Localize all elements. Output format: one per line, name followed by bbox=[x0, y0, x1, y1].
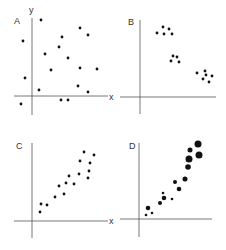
panel-label-a: A bbox=[14, 16, 20, 26]
panel-c bbox=[14, 143, 108, 238]
data-point bbox=[87, 91, 90, 94]
data-point bbox=[171, 198, 174, 201]
data-point bbox=[145, 214, 148, 217]
data-point bbox=[185, 164, 191, 170]
data-point bbox=[162, 192, 165, 195]
panel-c-points bbox=[39, 151, 96, 214]
data-point bbox=[208, 81, 211, 84]
data-point bbox=[146, 206, 151, 211]
data-point bbox=[196, 72, 199, 75]
axis-label-y: y bbox=[29, 5, 34, 15]
data-point bbox=[170, 60, 173, 63]
data-point bbox=[163, 33, 166, 36]
data-point bbox=[20, 103, 23, 106]
data-point bbox=[178, 61, 181, 64]
data-point bbox=[183, 177, 188, 182]
data-point bbox=[162, 26, 165, 29]
data-point bbox=[188, 148, 193, 153]
data-point bbox=[205, 74, 208, 77]
data-point bbox=[44, 53, 47, 56]
data-point bbox=[24, 77, 27, 80]
data-point bbox=[67, 57, 70, 60]
panel-b bbox=[120, 20, 216, 114]
data-point bbox=[78, 173, 81, 176]
data-point bbox=[77, 85, 80, 88]
data-point bbox=[67, 99, 70, 102]
data-point bbox=[40, 19, 43, 22]
data-point bbox=[65, 182, 68, 185]
data-point bbox=[50, 69, 53, 72]
data-point bbox=[79, 160, 82, 163]
data-point bbox=[158, 201, 162, 205]
scatter-figure: AyxBCxD bbox=[0, 0, 226, 250]
data-point bbox=[204, 70, 207, 73]
data-point bbox=[46, 204, 49, 207]
data-point bbox=[88, 170, 91, 173]
panel-label-d: D bbox=[129, 141, 136, 151]
data-point bbox=[61, 36, 64, 39]
axis-label-x: x bbox=[109, 216, 114, 226]
panel-a-points bbox=[20, 19, 99, 106]
data-point bbox=[171, 33, 174, 36]
data-point bbox=[151, 212, 154, 215]
data-point bbox=[196, 152, 203, 159]
data-point bbox=[54, 196, 57, 199]
data-point bbox=[168, 28, 171, 31]
axes-layer bbox=[14, 18, 216, 238]
data-point bbox=[79, 27, 82, 30]
data-point bbox=[211, 75, 214, 78]
data-point bbox=[195, 141, 202, 148]
panel-b-points bbox=[156, 26, 214, 84]
data-point bbox=[73, 183, 76, 186]
data-point bbox=[162, 196, 167, 201]
data-point bbox=[68, 175, 71, 178]
data-point bbox=[96, 68, 99, 71]
data-point bbox=[22, 40, 25, 43]
data-point bbox=[63, 193, 66, 196]
data-point bbox=[156, 32, 159, 35]
data-point bbox=[202, 78, 205, 81]
data-point bbox=[173, 180, 177, 184]
panel-d-points bbox=[145, 141, 203, 217]
data-point bbox=[60, 99, 63, 102]
data-point bbox=[87, 177, 90, 180]
axis-label-x: x bbox=[109, 92, 114, 102]
data-point bbox=[38, 89, 41, 92]
data-point bbox=[89, 162, 92, 165]
data-point bbox=[176, 56, 179, 59]
data-point bbox=[83, 151, 86, 154]
data-point bbox=[79, 67, 82, 70]
panel-label-c: C bbox=[16, 141, 23, 151]
panel-label-b: B bbox=[128, 17, 134, 27]
data-point bbox=[87, 34, 90, 37]
data-point bbox=[177, 187, 182, 192]
data-point bbox=[39, 211, 42, 214]
points-layer bbox=[20, 19, 214, 217]
data-point bbox=[58, 185, 61, 188]
data-point bbox=[40, 203, 43, 206]
data-point bbox=[58, 46, 61, 49]
data-point bbox=[172, 55, 175, 58]
data-point bbox=[186, 156, 193, 163]
data-point bbox=[93, 154, 96, 157]
